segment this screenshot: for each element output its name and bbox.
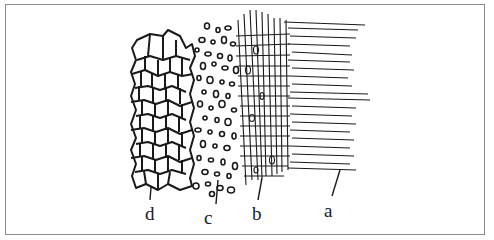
tissue-diagram	[0, 0, 494, 240]
region-d-cell-network	[131, 30, 195, 190]
label-d: d	[145, 204, 155, 223]
label-c: c	[204, 208, 212, 227]
leader-b	[258, 178, 262, 200]
leader-c	[216, 180, 218, 204]
leader-d	[150, 187, 151, 200]
region-c-granules	[193, 23, 239, 197]
region-b-crosshatch	[236, 10, 290, 185]
region-a-fibers	[284, 22, 370, 170]
leader-a	[332, 170, 340, 196]
label-a: a	[324, 201, 332, 220]
label-b: b	[252, 204, 262, 223]
